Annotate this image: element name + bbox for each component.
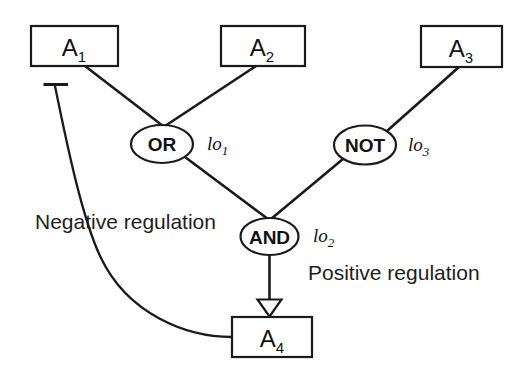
io-label-lo3-base: lo	[408, 134, 423, 155]
node-a1-subscript: 1	[78, 48, 86, 65]
node-a4-subscript: 4	[276, 339, 284, 356]
node-a4[interactable]: A4	[232, 317, 312, 357]
io-label-lo2-subscript: 2	[328, 235, 335, 250]
node-a3-base: A	[449, 35, 465, 62]
diagram-canvas: A1 A2 A3 A4 OR NOT A	[0, 0, 526, 375]
io-label-lo1-subscript: 1	[222, 143, 229, 158]
annotation-negative-regulation: Negative regulation	[35, 210, 216, 233]
node-a1[interactable]: A1	[31, 26, 118, 66]
node-a1-base: A	[62, 34, 78, 61]
annotation-positive-regulation: Positive regulation	[308, 261, 480, 284]
node-a2-base: A	[250, 34, 266, 61]
io-label-lo1: lo1	[207, 133, 228, 158]
node-a2-subscript: 2	[266, 48, 274, 65]
gate-not-label: NOT	[345, 135, 386, 156]
edge-a2-to-or	[165, 66, 256, 126]
node-a4-base: A	[260, 325, 276, 352]
io-label-lo2-base: lo	[313, 225, 328, 246]
io-label-lo1-base: lo	[207, 133, 222, 154]
gate-not[interactable]: NOT	[334, 126, 396, 165]
node-a2[interactable]: A2	[221, 26, 305, 66]
edge-not-to-and	[271, 159, 343, 219]
node-a3[interactable]: A3	[421, 26, 502, 67]
node-a3-subscript: 3	[465, 49, 473, 66]
gate-and[interactable]: AND	[241, 218, 299, 255]
io-label-lo3-subscript: 3	[422, 144, 430, 159]
edge-a3-to-not	[387, 67, 459, 131]
io-label-lo3: lo3	[408, 134, 430, 159]
gate-or[interactable]: OR	[131, 125, 193, 163]
positive-regulation-arrowhead-icon	[258, 300, 282, 317]
edge-a1-to-or	[85, 66, 163, 126]
regulatory-network-diagram: A1 A2 A3 A4 OR NOT A	[0, 0, 526, 375]
gate-and-label: AND	[249, 227, 290, 248]
gate-or-label: OR	[148, 134, 177, 155]
io-label-lo2: lo2	[313, 225, 335, 250]
